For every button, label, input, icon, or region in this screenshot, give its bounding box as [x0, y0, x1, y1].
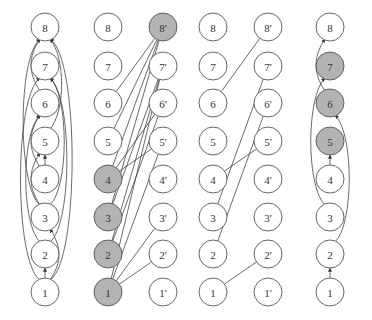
svg-text:7: 7 — [105, 61, 111, 73]
node-path-cover-2: 2 — [316, 240, 344, 268]
svg-text:3: 3 — [327, 212, 333, 224]
node-matching-6-prime: 6' — [254, 89, 282, 117]
node-path-cover-5: 5 — [316, 127, 344, 155]
node-matching-1: 1 — [199, 278, 227, 306]
svg-text:5: 5 — [42, 136, 48, 148]
svg-text:6: 6 — [327, 98, 333, 110]
svg-text:1: 1 — [42, 287, 48, 299]
svg-text:1': 1' — [264, 287, 272, 299]
svg-text:2: 2 — [105, 249, 111, 261]
svg-text:5: 5 — [105, 136, 111, 148]
node-matching-3: 3 — [199, 203, 227, 231]
svg-text:3': 3' — [264, 212, 272, 224]
node-matching-8: 8 — [199, 13, 227, 41]
svg-text:1': 1' — [159, 287, 167, 299]
node-bipartite-1-prime: 1' — [149, 278, 177, 306]
node-path-cover-1: 1 — [316, 278, 344, 306]
node-bipartite-5: 5 — [94, 127, 122, 155]
node-bipartite-7: 7 — [94, 52, 122, 80]
svg-text:3: 3 — [42, 212, 48, 224]
node-matching-2-prime: 2' — [254, 240, 282, 268]
node-dag-7: 7 — [31, 52, 59, 80]
node-matching-1-prime: 1' — [254, 278, 282, 306]
svg-text:5': 5' — [159, 136, 167, 148]
node-bipartite-6-prime: 6' — [149, 89, 177, 117]
svg-text:8: 8 — [105, 22, 111, 34]
svg-text:8': 8' — [159, 22, 167, 34]
node-bipartite-1: 1 — [94, 278, 122, 306]
node-dag-2: 2 — [31, 240, 59, 268]
svg-text:4': 4' — [159, 174, 167, 186]
edge-1-2prime — [120, 262, 152, 284]
svg-text:7: 7 — [327, 61, 333, 73]
node-path-cover-7: 7 — [316, 52, 344, 80]
node-matching-7: 7 — [199, 52, 227, 80]
node-bipartite-7-prime: 7' — [149, 52, 177, 80]
svg-text:8: 8 — [42, 22, 48, 34]
node-dag-8: 8 — [31, 13, 59, 41]
node-bipartite-4-prime: 4' — [149, 165, 177, 193]
node-bipartite-6: 6 — [94, 89, 122, 117]
node-dag-1: 1 — [31, 278, 59, 306]
svg-text:7: 7 — [42, 61, 48, 73]
node-bipartite-3-prime: 3' — [149, 203, 177, 231]
edge-4-5prime — [225, 149, 257, 171]
svg-text:8': 8' — [264, 22, 272, 34]
svg-text:8: 8 — [210, 22, 216, 34]
node-matching-2: 2 — [199, 240, 227, 268]
svg-text:6: 6 — [105, 98, 111, 110]
node-bipartite-2-prime: 2' — [149, 240, 177, 268]
svg-text:2: 2 — [42, 249, 48, 261]
node-dag-3: 3 — [31, 203, 59, 231]
node-path-cover-8: 8 — [316, 13, 344, 41]
svg-text:6: 6 — [210, 98, 216, 110]
node-path-cover-4: 4 — [316, 165, 344, 193]
svg-text:3: 3 — [105, 212, 111, 224]
node-bipartite-8: 8 — [94, 13, 122, 41]
svg-text:1: 1 — [105, 287, 111, 299]
svg-text:4: 4 — [105, 174, 111, 186]
diagram-canvas: 12345678123456781'2'3'4'5'6'7'8'12345678… — [0, 0, 372, 320]
node-matching-6: 6 — [199, 89, 227, 117]
svg-text:2': 2' — [264, 249, 272, 261]
node-dag-5: 5 — [31, 127, 59, 155]
node-bipartite-4: 4 — [94, 165, 122, 193]
svg-text:7': 7' — [159, 61, 167, 73]
svg-text:6': 6' — [159, 98, 167, 110]
node-path-cover-3: 3 — [316, 203, 344, 231]
svg-text:7: 7 — [210, 61, 216, 73]
svg-text:8: 8 — [327, 22, 333, 34]
node-matching-4-prime: 4' — [254, 165, 282, 193]
node-matching-8-prime: 8' — [254, 13, 282, 41]
edges-layer — [21, 38, 350, 284]
node-matching-7-prime: 7' — [254, 52, 282, 80]
svg-text:5: 5 — [327, 136, 333, 148]
svg-text:3': 3' — [159, 212, 167, 224]
svg-text:4: 4 — [210, 174, 216, 186]
svg-text:5: 5 — [210, 136, 216, 148]
svg-text:7': 7' — [264, 61, 272, 73]
node-dag-4: 4 — [31, 165, 59, 193]
svg-text:2: 2 — [210, 249, 216, 261]
svg-text:1: 1 — [210, 287, 216, 299]
node-matching-5-prime: 5' — [254, 127, 282, 155]
node-bipartite-5-prime: 5' — [149, 127, 177, 155]
node-dag-6: 6 — [31, 89, 59, 117]
graph-figure: 12345678123456781'2'3'4'5'6'7'8'12345678… — [0, 0, 372, 320]
node-matching-4: 4 — [199, 165, 227, 193]
node-path-cover-6: 6 — [316, 89, 344, 117]
nodes-layer: 12345678123456781'2'3'4'5'6'7'8'12345678… — [31, 13, 344, 306]
node-bipartite-8-prime: 8' — [149, 13, 177, 41]
node-matching-5: 5 — [199, 127, 227, 155]
svg-text:4': 4' — [264, 174, 272, 186]
edge-1-2prime — [225, 262, 257, 284]
node-matching-3-prime: 3' — [254, 203, 282, 231]
svg-text:2': 2' — [159, 249, 167, 261]
svg-text:2: 2 — [327, 249, 333, 261]
edge-5-8prime — [114, 40, 157, 129]
svg-text:6: 6 — [42, 98, 48, 110]
svg-text:1: 1 — [327, 287, 333, 299]
svg-text:6': 6' — [264, 98, 272, 110]
svg-text:4: 4 — [42, 174, 48, 186]
node-bipartite-2: 2 — [94, 240, 122, 268]
